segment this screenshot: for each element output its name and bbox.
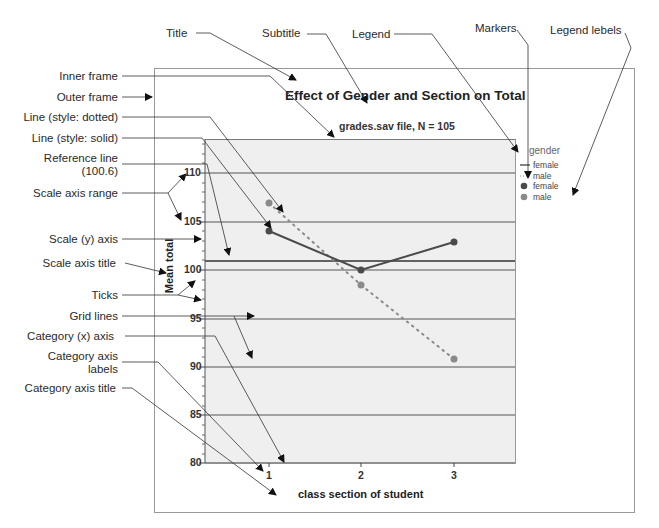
legend-title: gender (529, 145, 560, 156)
callout-inner-frame: Inner frame (59, 70, 118, 83)
y-tick-label-90: 90 (190, 360, 202, 372)
callout-outer-frame: Outer frame (57, 91, 118, 104)
y-axis-title: Mean total (163, 239, 175, 293)
y-tick-label-80: 80 (190, 456, 202, 468)
y-tick-label-95: 95 (190, 312, 202, 324)
legend-label-male-line: male (533, 171, 551, 181)
legend-label-female-line: female (533, 160, 559, 170)
x-tick-label-2: 2 (358, 469, 364, 481)
callout-line-dotted: Line (style: dotted) (23, 111, 118, 124)
callout-scale-axis-range: Scale axis range (33, 187, 118, 200)
callout-scale-y-axis: Scale (y) axis (49, 233, 118, 246)
y-tick-label-100: 100 (184, 263, 202, 275)
y-tick-label-105: 105 (184, 215, 202, 227)
legend-label-female-marker: female (533, 181, 559, 191)
x-axis-title: class section of student (298, 488, 423, 500)
callout-category-axis-labels-l2: labels (48, 363, 118, 376)
callout-category-axis-title: Category axis title (25, 382, 116, 395)
y-tick-label-110: 110 (184, 166, 201, 178)
callout-legend: Legend (352, 28, 390, 41)
callout-reference-line: Reference line (100.6) (44, 152, 118, 178)
callout-reference-line-l2: (100.6) (44, 165, 118, 178)
callout-title: Title (166, 27, 187, 40)
x-tick-label-3: 3 (451, 469, 457, 481)
legend-marker-male (521, 194, 528, 201)
callout-subtitle: Subtitle (262, 27, 300, 40)
grid-lines (205, 173, 515, 415)
callout-markers: Markers (475, 22, 517, 35)
callout-category-axis-labels: Category axis labels (48, 350, 118, 376)
male-dotted-line (269, 203, 454, 359)
callout-line-solid: Line (style: solid) (32, 132, 118, 145)
callout-category-x-axis: Category (x) axis (27, 330, 114, 343)
callout-grid-lines: Grid lines (69, 310, 118, 323)
callout-reference-line-l1: Reference line (44, 152, 118, 165)
legend-marker-female (521, 183, 528, 190)
callout-ticks: Ticks (92, 289, 118, 302)
female-solid-line (269, 231, 454, 270)
x-tick-label-1: 1 (266, 469, 272, 481)
callout-scale-axis-title: Scale axis title (42, 257, 116, 270)
callout-legend-labels: Legend lebels (550, 24, 622, 37)
legend: gender (529, 145, 560, 156)
legend-label-male-marker: male (533, 192, 551, 202)
y-tick-label-85: 85 (190, 408, 202, 420)
callout-category-axis-labels-l1: Category axis (48, 350, 118, 363)
